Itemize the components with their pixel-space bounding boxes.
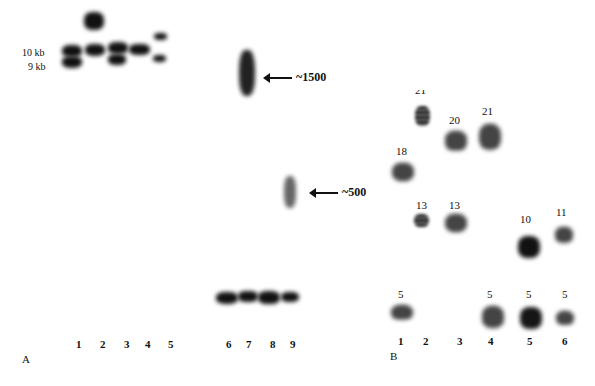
band xyxy=(216,292,238,304)
band xyxy=(84,12,104,30)
band xyxy=(238,291,258,302)
band xyxy=(556,311,574,325)
band-label: 21 xyxy=(482,105,493,117)
arrow-icon xyxy=(314,192,338,194)
annotation-1500: ~1500 xyxy=(296,70,326,85)
marker-9kb: 9 kb xyxy=(28,61,46,72)
band xyxy=(482,306,504,328)
band-label: 5 xyxy=(562,288,568,300)
band xyxy=(154,33,167,40)
band-label: 13 xyxy=(449,199,460,211)
band-label: 20 xyxy=(449,114,460,126)
marker-10kb: 10 kb xyxy=(22,47,45,58)
band xyxy=(445,214,467,232)
band-label: 18 xyxy=(396,145,407,157)
band-label: 11 xyxy=(556,206,567,218)
lane-label: 3 xyxy=(457,335,463,347)
lane-label: 8 xyxy=(270,338,276,350)
lane-label: 4 xyxy=(145,338,151,350)
band xyxy=(281,292,299,302)
lane-label: 2 xyxy=(423,335,429,347)
lane-label: 1 xyxy=(76,338,82,350)
band xyxy=(284,176,296,208)
band xyxy=(108,54,126,65)
band-label: 5 xyxy=(487,288,493,300)
lane-label: 4 xyxy=(488,335,494,347)
band-label: 5 xyxy=(398,288,404,300)
band xyxy=(414,214,429,227)
band xyxy=(392,163,414,181)
panel-b-label: B xyxy=(390,350,397,362)
band xyxy=(239,50,255,96)
band-label: 13 xyxy=(416,199,427,211)
band xyxy=(520,307,542,329)
band xyxy=(555,227,573,243)
band xyxy=(62,56,82,68)
band xyxy=(415,106,430,126)
lane-label: 2 xyxy=(100,338,106,350)
arrow-icon xyxy=(268,77,292,79)
lane-label: 6 xyxy=(562,335,568,347)
band xyxy=(129,44,150,55)
lane-label: 6 xyxy=(226,338,232,350)
band xyxy=(479,124,501,150)
band xyxy=(518,236,540,258)
band xyxy=(85,44,105,56)
band xyxy=(258,291,280,304)
band-label: 21 xyxy=(415,84,426,96)
annotation-500: ~500 xyxy=(342,185,366,200)
lane-label: 7 xyxy=(246,338,252,350)
band xyxy=(153,55,166,62)
lane-label: 5 xyxy=(168,338,174,350)
band-label: 10 xyxy=(520,213,531,225)
band xyxy=(108,42,128,54)
lane-label: 1 xyxy=(398,335,404,347)
lane-label: 3 xyxy=(124,338,130,350)
band xyxy=(445,131,467,151)
lane-label: 9 xyxy=(290,338,296,350)
band-label: 5 xyxy=(526,288,532,300)
panel-a-label: A xyxy=(22,353,30,365)
lane-label: 5 xyxy=(527,335,533,347)
band xyxy=(391,305,413,320)
